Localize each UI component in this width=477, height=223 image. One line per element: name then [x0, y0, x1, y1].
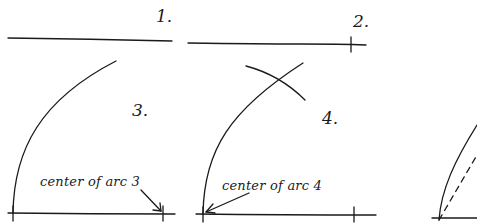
- panel-4-line: [196, 214, 376, 215]
- center-of-arc-4-label: center of arc 4: [222, 178, 322, 193]
- arrow-4-shaft: [206, 193, 249, 212]
- arc-4-crossing: [246, 66, 305, 100]
- center-of-arc-3-label: center of arc 3: [40, 174, 140, 189]
- panel-1-number: 1.: [156, 6, 172, 26]
- panel-2-number: 2.: [352, 11, 369, 31]
- construction-diagram: 1. 2. 3. center of arc 3 4. center of ar…: [0, 0, 477, 223]
- arc-3: [13, 61, 116, 213]
- panel-3-line: [8, 213, 175, 214]
- panel-2: 2.: [188, 11, 369, 52]
- panel-1: 1.: [8, 6, 172, 41]
- panel-5-dashed-line: [439, 155, 477, 220]
- panel-5: [432, 125, 477, 220]
- panel-4-number: 4.: [321, 108, 338, 128]
- panel-2-line: [188, 43, 366, 45]
- panel-3: 3. center of arc 3: [8, 61, 175, 221]
- panel-4: 4. center of arc 4: [196, 63, 376, 222]
- arrow-3-shaft: [141, 190, 161, 211]
- panel-1-line: [8, 38, 172, 41]
- arc-5: [439, 125, 477, 220]
- panel-3-number: 3.: [132, 100, 148, 120]
